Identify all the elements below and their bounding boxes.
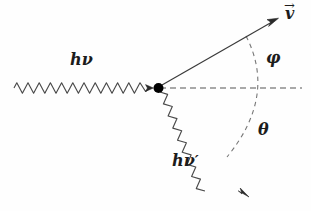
photon-wave-icon-incident (14, 83, 150, 93)
collision-vertex-dot-icon (154, 83, 164, 93)
arrowhead-icon-scattered (238, 188, 249, 197)
vector-arrow-accent-icon: → (284, 0, 295, 12)
scattered-photon-prime: ′ (195, 152, 199, 170)
compton-scattering-diagram: hν hν′ →v φ θ (0, 0, 311, 211)
vector-arrow-icon-shaft (162, 22, 272, 85)
diagram-canvas (0, 0, 311, 211)
angle-theta-label: θ (258, 122, 269, 138)
angle-phi-label: φ (266, 50, 280, 66)
photon-wave-icon-scattered (160, 92, 205, 191)
dashed-angle-arc-icon (227, 36, 258, 157)
incident-photon-label: hν (70, 52, 93, 68)
electron-velocity-label: →v (285, 6, 294, 22)
arrowhead-icon-incident (146, 85, 154, 92)
velocity-vector-wrap: →v (285, 6, 294, 22)
arrowhead-icon-velocity (267, 18, 279, 26)
scattered-photon-label: hν′ (172, 153, 199, 169)
scattered-photon-base: hν (172, 151, 195, 170)
